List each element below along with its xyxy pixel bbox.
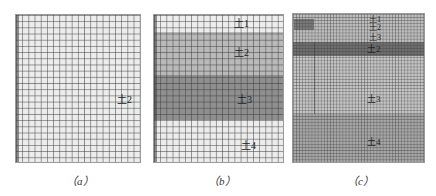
caption-a: （a） xyxy=(66,172,94,188)
fine-grid-mesh xyxy=(293,14,424,162)
soil-label: 土3 xyxy=(369,33,381,43)
soil-label: 土2 xyxy=(117,95,132,105)
soil-label: 土2 xyxy=(369,23,381,33)
soil-label: 土3 xyxy=(237,95,252,105)
panel-c: 土1 土2 土3 土2 土3 土4 xyxy=(292,13,425,163)
caption-c: （c） xyxy=(347,172,374,188)
panel-b: 土1 土2 土3 土4 xyxy=(153,14,284,163)
soil-label: 土4 xyxy=(241,141,256,151)
soil-label: 土3 xyxy=(367,94,381,104)
soil-label: 土2 xyxy=(367,44,381,54)
vertical-divider xyxy=(314,42,315,114)
caption-b: （b） xyxy=(208,172,236,188)
grid-mesh xyxy=(154,15,283,162)
grid-mesh xyxy=(16,15,140,162)
soil-label: 土1 xyxy=(234,19,249,29)
left-boundary xyxy=(16,15,19,162)
soil-label: 土4 xyxy=(367,137,381,147)
soil-label: 土2 xyxy=(234,48,249,58)
left-boundary xyxy=(154,15,157,162)
panel-a: 土2 xyxy=(15,14,141,163)
